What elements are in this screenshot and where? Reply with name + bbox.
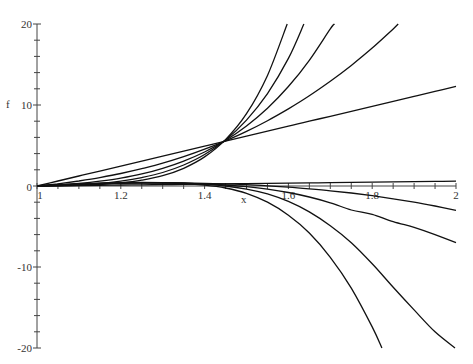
y-axis-label: f (6, 98, 10, 110)
series-line-upper-3 (37, 24, 335, 186)
y-tick-label: 10 (21, 99, 33, 111)
plot: 2010-10-200 11.21.41.61.82 x f (0, 0, 473, 364)
x-tick-label: 1.4 (198, 189, 212, 201)
x-tick-label: 1 (37, 189, 43, 201)
series-line-upper-2 (37, 24, 398, 186)
series-line-lower-4 (37, 183, 455, 348)
series-line-upper-4 (37, 24, 304, 186)
y-tick-label: -10 (17, 261, 32, 273)
x-tick-label: 2 (453, 189, 459, 201)
y-tick-label: 20 (21, 18, 33, 30)
y-tick-label: -20 (17, 342, 32, 354)
series-line-upper-5 (37, 24, 287, 186)
x-axis-label: x (241, 193, 247, 205)
x-tick-label: 1.2 (114, 189, 128, 201)
series-line-lower-5 (37, 182, 382, 348)
series-line-upper-1 (37, 86, 456, 186)
origin-label: 0 (27, 181, 33, 193)
series-line-lower-3 (37, 183, 456, 243)
